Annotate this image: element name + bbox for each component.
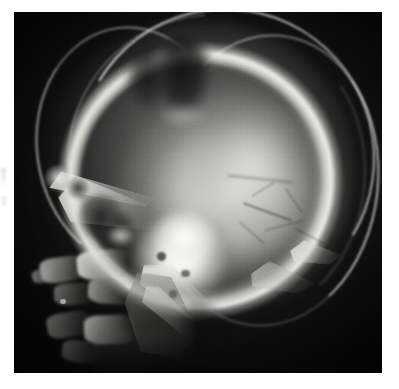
scan-artifact-left-upper — [1, 168, 6, 186]
film-vignette — [14, 12, 382, 373]
figure-alt-text: Lateral skull radiograph showing a well-… — [0, 0, 1, 1]
page-canvas: Lateral skull radiograph showing a well-… — [0, 0, 399, 389]
lateral-skull-radiograph — [14, 12, 382, 373]
scan-artifact-left-lower — [2, 196, 6, 206]
figure-caption — [14, 376, 382, 387]
